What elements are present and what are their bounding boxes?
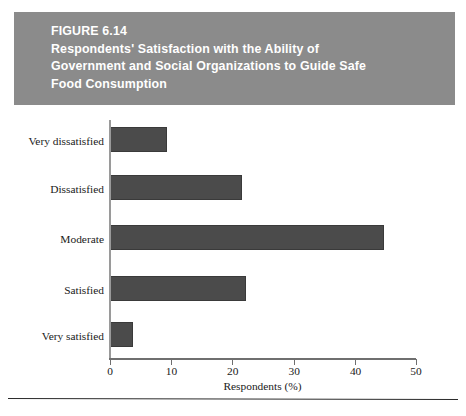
- y-axis-line: [109, 120, 111, 359]
- bar-satisfied: [110, 276, 246, 301]
- bar-moderate: [110, 225, 384, 250]
- category-label-text: Moderate: [6, 234, 104, 245]
- x-tick-label-0: 0: [107, 366, 113, 377]
- x-tick-label-40: 40: [350, 366, 361, 377]
- category-label-text: Very dissatisfied: [6, 136, 104, 147]
- x-axis-line: [109, 358, 416, 360]
- category-label-text: Very satisfied: [6, 331, 104, 342]
- x-tick-label-30: 30: [288, 366, 299, 377]
- x-tick-label-10: 10: [166, 366, 177, 377]
- bar-very-satisfied: [110, 322, 133, 347]
- bar-chart: Very dissatisfied Dissatisfied Moderate …: [0, 0, 466, 416]
- category-label-text: Satisfied: [6, 285, 104, 296]
- x-tick-label-50: 50: [410, 366, 421, 377]
- bar-dissatisfied: [110, 175, 242, 200]
- bar-very-dissatisfied: [110, 127, 167, 152]
- category-label-text: Dissatisfied: [6, 184, 104, 195]
- x-tick-label-20: 20: [227, 366, 238, 377]
- x-axis-title: Respondents (%): [109, 381, 416, 392]
